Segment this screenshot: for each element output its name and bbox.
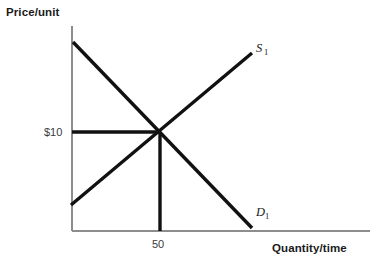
x-tick-label-50: 50: [152, 238, 164, 250]
demand-curve-label-subscript: 1: [265, 211, 269, 221]
supply-demand-chart: Price/unit Quantity/time $10 50 S 1 D 1: [0, 0, 380, 270]
demand-curve-label-base: D: [255, 205, 265, 219]
y-tick-label-10: $10: [44, 126, 62, 138]
y-axis-title: Price/unit: [6, 6, 59, 18]
x-axis-title: Quantity/time: [272, 242, 347, 254]
supply-curve-label-subscript: 1: [264, 47, 268, 57]
supply-curve-label-base: S: [256, 41, 263, 55]
chart-canvas: Price/unit Quantity/time $10 50 S 1 D 1: [0, 0, 380, 270]
